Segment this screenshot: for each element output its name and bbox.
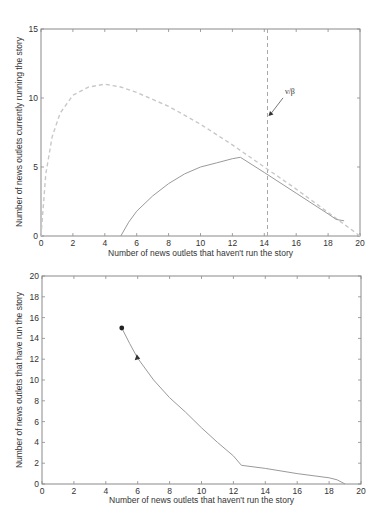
trajectory-curve bbox=[122, 328, 345, 484]
x-tick-label: 4 bbox=[102, 238, 107, 248]
x-tick-label: 8 bbox=[166, 238, 171, 248]
y-tick-label: 15 bbox=[29, 24, 39, 34]
bottom-plot-frame bbox=[42, 276, 361, 484]
x-tick-label: 20 bbox=[356, 486, 366, 496]
y-tick-label: 14 bbox=[30, 333, 40, 343]
y-tick-label: 12 bbox=[30, 354, 40, 364]
y-tick-label: 0 bbox=[33, 231, 38, 241]
top-x-axis-label: Number of news outlets that haven't run … bbox=[108, 248, 294, 258]
x-tick-label: 14 bbox=[260, 238, 270, 248]
bottom-y-axis-label: Number of news outlets that have run the… bbox=[14, 291, 24, 468]
bottom-y-ticks: 02468101214161820 bbox=[30, 271, 361, 489]
bottom-chart: 02468101214161820 02468101214161820 Numb… bbox=[14, 271, 366, 505]
y-tick-label: 20 bbox=[30, 271, 40, 281]
y-tick-label: 18 bbox=[30, 292, 40, 302]
x-tick-label: 20 bbox=[355, 238, 365, 248]
y-tick-label: 4 bbox=[34, 437, 39, 447]
y-tick-label: 16 bbox=[30, 313, 40, 323]
x-tick-label: 6 bbox=[134, 238, 139, 248]
top-plot-frame bbox=[41, 29, 360, 236]
y-tick-label: 5 bbox=[33, 162, 38, 172]
annotation-arrow-icon bbox=[268, 98, 283, 116]
x-tick-label: 0 bbox=[39, 238, 44, 248]
x-tick-label: 2 bbox=[71, 238, 76, 248]
y-tick-label: 2 bbox=[34, 458, 39, 468]
trajectory-curve bbox=[121, 157, 344, 236]
x-tick-label: 2 bbox=[72, 486, 77, 496]
bottom-x-axis-label: Number of news outlets that haven't run … bbox=[109, 495, 295, 505]
x-tick-label: 12 bbox=[228, 238, 238, 248]
x-tick-label: 4 bbox=[103, 486, 108, 496]
y-tick-label: 10 bbox=[29, 93, 39, 103]
y-tick-label: 0 bbox=[34, 479, 39, 489]
top-chart: 02468101214161820 051015 ν/β Number of n… bbox=[14, 24, 365, 258]
x-tick-label: 18 bbox=[323, 238, 333, 248]
x-tick-label: 0 bbox=[40, 486, 45, 496]
top-y-axis-label: Number of news outlets currently running… bbox=[14, 36, 24, 227]
top-x-ticks: 02468101214161820 bbox=[39, 29, 365, 248]
figure: 02468101214161820 051015 ν/β Number of n… bbox=[0, 0, 384, 529]
top-y-ticks: 051015 bbox=[29, 24, 360, 241]
x-tick-label: 10 bbox=[196, 238, 206, 248]
y-tick-label: 10 bbox=[30, 375, 40, 385]
y-tick-label: 8 bbox=[34, 396, 39, 406]
nullcline-curve bbox=[41, 84, 360, 236]
nu-beta-annotation: ν/β bbox=[285, 87, 295, 96]
x-tick-label: 18 bbox=[324, 486, 334, 496]
y-tick-label: 6 bbox=[34, 417, 39, 427]
start-point-marker bbox=[119, 326, 124, 331]
bottom-x-ticks: 02468101214161820 bbox=[40, 276, 366, 496]
x-tick-label: 16 bbox=[291, 238, 301, 248]
